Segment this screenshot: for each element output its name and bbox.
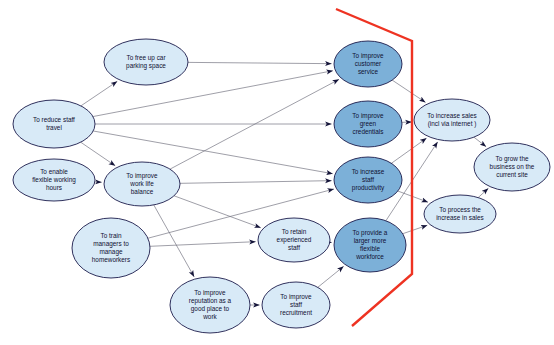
causal-map-canvas: To free up carparking spaceTo reduce sta… xyxy=(0,0,554,345)
edge-improve-work-life-balance-to-increase-staff-productivity xyxy=(180,181,332,184)
node-improve-reputation-as-good-place-to-work[interactable]: To improvereputation as agood place towo… xyxy=(170,277,250,333)
node-train-managers-to-manage-homeworkers[interactable]: To trainmanagers tomanagehomeworkers xyxy=(72,218,150,278)
edge-reduce-staff-travel-to-free-up-car-parking-space xyxy=(81,81,117,105)
edge-increase-staff-productivity-to-increase-sales-incl-via-internet xyxy=(391,138,426,163)
edge-increase-sales-incl-via-internet-to-grow-the-business-on-the-current-site xyxy=(474,137,486,147)
node-increase-sales-incl-via-internet[interactable]: To increase sales(incl via internet ) xyxy=(414,99,490,141)
node-provide-larger-more-flexible-workforce[interactable]: To provide alarger moreflexibleworkforce xyxy=(334,218,406,272)
node-reduce-staff-travel[interactable]: To reduce stafftravel xyxy=(13,100,95,148)
node-retain-experienced-staff[interactable]: To retainexperiencedstaff xyxy=(258,218,330,262)
edge-improve-customer-service-to-increase-sales-incl-via-internet xyxy=(392,80,425,102)
node-grow-the-business-on-the-current-site[interactable]: To grow thebusiness on thecurrent site xyxy=(474,143,550,191)
edge-improve-staff-recruitment-to-provide-larger-more-flexible-workforce xyxy=(318,266,344,287)
node-label: To increase sales(incl via internet ) xyxy=(427,112,476,128)
node-improve-work-life-balance[interactable]: To improvework lifebalance xyxy=(104,162,180,206)
edge-train-managers-to-manage-homeworkers-to-retain-experienced-staff xyxy=(150,242,256,247)
causal-map-svg: To free up carparking spaceTo reduce sta… xyxy=(0,0,554,345)
node-process-the-increase-in-sales[interactable]: To process theincrease in sales xyxy=(424,195,496,233)
node-improve-staff-recruitment[interactable]: To improvestaffrecruitment xyxy=(262,282,330,328)
node-free-up-car-parking-space[interactable]: To free up carparking space xyxy=(104,39,188,85)
node-improve-customer-service[interactable]: To improvecustomerservice xyxy=(334,41,402,87)
node-increase-staff-productivity[interactable]: To increasestaffproductivity xyxy=(334,157,402,203)
edge-provide-larger-more-flexible-workforce-to-process-the-increase-in-sales xyxy=(403,225,428,233)
edge-process-the-increase-in-sales-to-grow-the-business-on-the-current-site xyxy=(478,188,488,197)
edge-improve-work-life-balance-to-improve-reputation-as-good-place-to-work xyxy=(154,205,194,277)
edge-reduce-staff-travel-to-improve-work-life-balance xyxy=(81,142,115,165)
nodes-layer: To free up carparking spaceTo reduce sta… xyxy=(13,39,550,333)
node-improve-green-credentials[interactable]: To improvegreencredentials xyxy=(334,101,402,147)
node-enable-flexible-working-hours[interactable]: To enableflexible workinghours xyxy=(13,159,95,201)
node-label: To process theincrease in sales xyxy=(436,206,484,221)
edge-free-up-car-parking-space-to-improve-customer-service xyxy=(188,62,332,63)
node-label: To free up carparking space xyxy=(126,54,166,70)
